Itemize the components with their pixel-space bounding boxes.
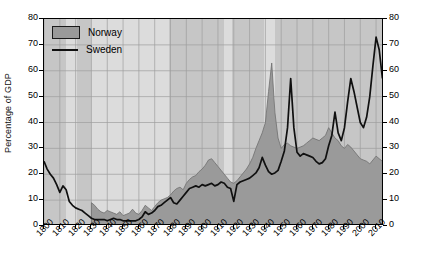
y-axis-tick: [39, 199, 43, 200]
y-tick-label-right: 70: [389, 38, 411, 48]
y-axis-tick: [39, 96, 43, 97]
chart-container: Percentage of GDP Norway Sweden 00101020…: [0, 0, 421, 271]
y-tick-label-left: 60: [18, 64, 38, 74]
y-axis-tick: [383, 70, 387, 71]
y-tick-label-left: 20: [18, 167, 38, 177]
y-tick-label-left: 30: [18, 141, 38, 151]
sweden-line-swatch: [52, 49, 78, 51]
y-axis-tick: [383, 199, 387, 200]
y-tick-label-left: 80: [18, 12, 38, 22]
y-axis-tick: [383, 147, 387, 148]
y-axis-tick: [383, 122, 387, 123]
y-tick-label-left: 40: [18, 116, 38, 126]
y-axis-label: Percentage of GDP: [0, 0, 17, 225]
y-tick-label-right: 20: [389, 167, 411, 177]
y-tick-label-right: 10: [389, 193, 411, 203]
y-axis-tick: [39, 147, 43, 148]
norway-area: [91, 63, 382, 225]
legend-item-norway: Norway: [52, 24, 172, 41]
y-tick-label-left: 50: [18, 90, 38, 100]
legend-label-sweden: Sweden: [86, 44, 122, 55]
y-tick-label-right: 30: [389, 141, 411, 151]
y-tick-label-right: 40: [389, 116, 411, 126]
y-axis-tick: [383, 44, 387, 45]
norway-area-swatch: [52, 26, 80, 39]
y-axis-tick: [383, 173, 387, 174]
y-axis-tick: [39, 70, 43, 71]
legend-item-sweden: Sweden: [52, 41, 172, 58]
y-axis-tick: [39, 173, 43, 174]
y-tick-label-left: 70: [18, 38, 38, 48]
y-tick-label-right: 60: [389, 64, 411, 74]
y-axis-tick: [39, 122, 43, 123]
y-axis-tick: [383, 18, 387, 19]
y-tick-label-right: 50: [389, 90, 411, 100]
y-tick-label-right: 80: [389, 12, 411, 22]
y-axis-tick: [39, 18, 43, 19]
y-tick-label-left: 10: [18, 193, 38, 203]
y-tick-label-right: 0: [389, 219, 411, 229]
chart-legend: Norway Sweden: [52, 24, 172, 58]
y-tick-label-left: 0: [18, 219, 38, 229]
y-axis-tick: [383, 96, 387, 97]
legend-label-norway: Norway: [88, 27, 122, 38]
y-axis-tick: [39, 44, 43, 45]
